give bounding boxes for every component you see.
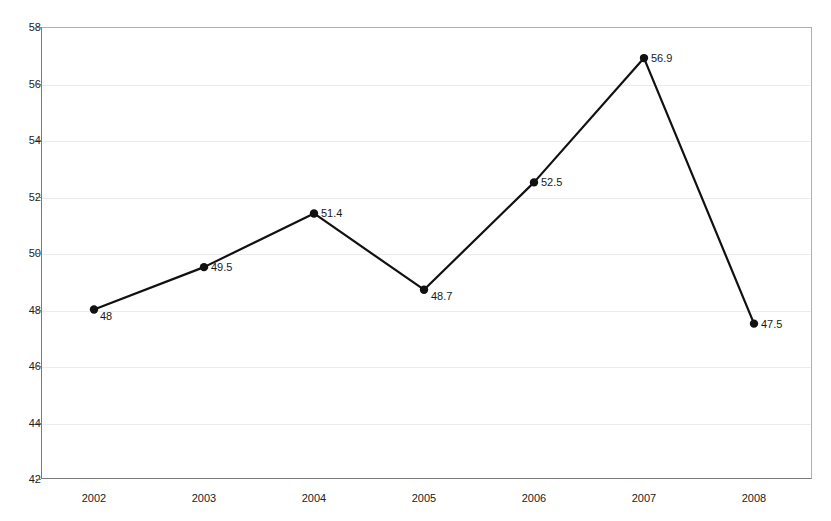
line-chart: 424446485052545658 200220032004200520062…: [0, 0, 831, 521]
x-tick-label-2002: 2002: [54, 493, 134, 504]
y-tick-mark-54: [36, 140, 41, 141]
data-label-2002: 48: [100, 311, 112, 322]
y-tick-mark-42: [36, 479, 41, 480]
gridline-y-54: [42, 141, 811, 142]
data-label-2006: 52.5: [541, 177, 562, 188]
plot-area: [41, 27, 812, 479]
y-tick-mark-44: [36, 423, 41, 424]
gridline-y-52: [42, 198, 811, 199]
y-tick-mark-48: [36, 310, 41, 311]
data-label-2004: 51.4: [321, 208, 342, 219]
x-tick-label-2008: 2008: [714, 493, 794, 504]
data-label-2008: 47.5: [761, 319, 782, 330]
y-tick-mark-52: [36, 197, 41, 198]
gridline-y-44: [42, 424, 811, 425]
gridline-y-46: [42, 367, 811, 368]
gridline-y-56: [42, 85, 811, 86]
y-tick-mark-50: [36, 253, 41, 254]
gridline-y-50: [42, 254, 811, 255]
data-label-2007: 56.9: [651, 53, 672, 64]
y-tick-mark-56: [36, 84, 41, 85]
data-label-2003: 49.5: [211, 262, 232, 273]
x-tick-label-2007: 2007: [604, 493, 684, 504]
x-tick-label-2006: 2006: [494, 493, 574, 504]
data-label-2005: 48.7: [431, 291, 452, 302]
x-tick-label-2004: 2004: [274, 493, 354, 504]
y-tick-mark-58: [36, 27, 41, 28]
y-axis: 424446485052545658: [0, 0, 41, 521]
x-tick-label-2003: 2003: [164, 493, 244, 504]
x-tick-label-2005: 2005: [384, 493, 464, 504]
gridline-y-48: [42, 311, 811, 312]
y-tick-mark-46: [36, 366, 41, 367]
